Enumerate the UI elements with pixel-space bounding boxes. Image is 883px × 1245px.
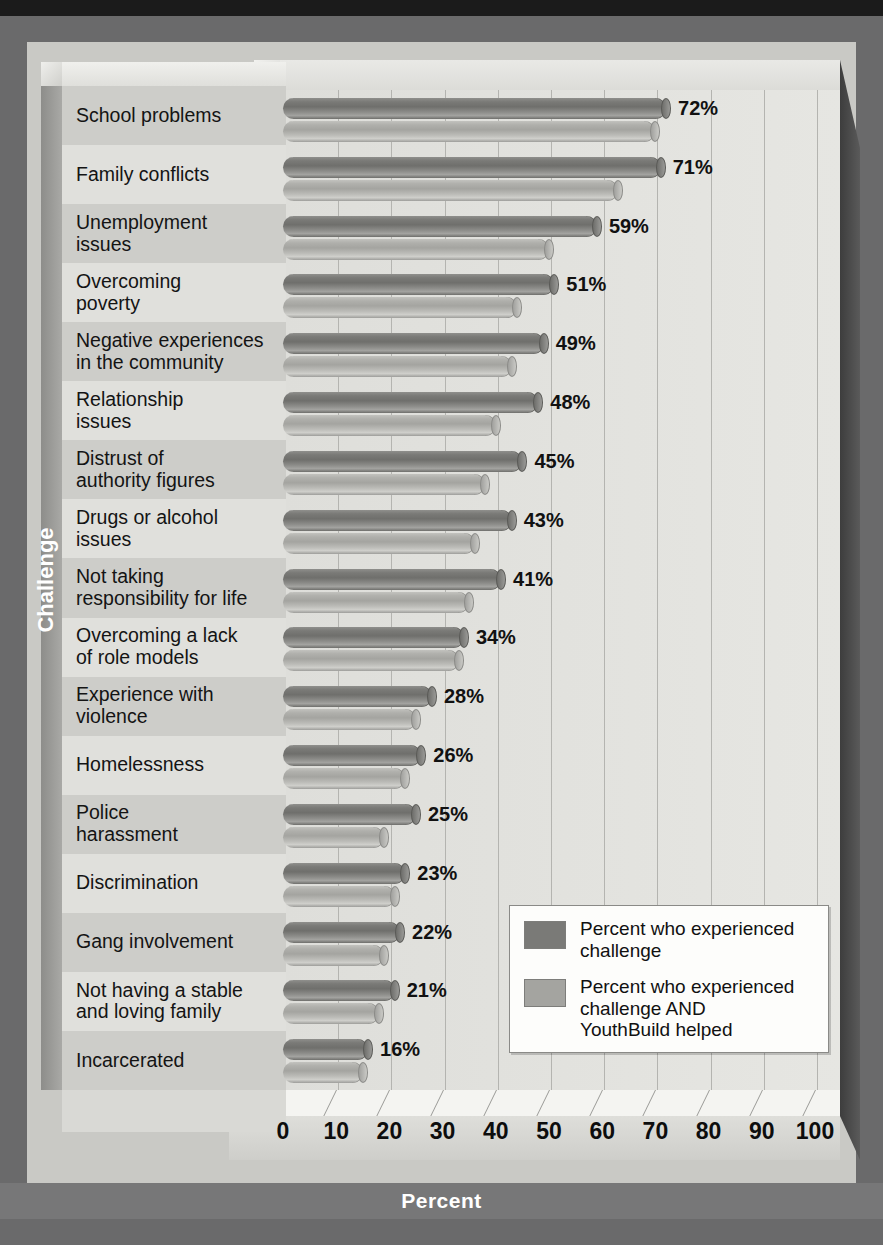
plot-right-shadow: [840, 60, 860, 1160]
bar-cap: [539, 333, 549, 354]
x-tick-label: 40: [483, 1118, 509, 1145]
bar-cap: [592, 216, 602, 237]
category-label-text: Not having a stableand loving family: [76, 980, 243, 1024]
category-label: Discrimination: [62, 854, 286, 913]
tick-mark: [643, 1090, 657, 1116]
bar-cap: [507, 510, 517, 531]
bar-series-experienced: [283, 451, 522, 472]
bar-series-youthbuild-helped: [283, 415, 496, 436]
bar-value-label: 26%: [433, 744, 473, 767]
category-label-text: Negative experiencesin the community: [76, 330, 264, 374]
x-tick-label: 60: [589, 1118, 615, 1145]
bar-value-label: 43%: [524, 509, 564, 532]
legend-label: Percent who experiencedchallenge: [580, 918, 794, 962]
bar-series-experienced: [283, 333, 544, 354]
category-label-text: Distrust ofauthority figures: [76, 448, 215, 492]
y-axis-title: Challenge: [31, 470, 61, 690]
bar-series-experienced: [283, 510, 512, 531]
top-dark-band: [0, 0, 883, 16]
bar-series-experienced: [283, 274, 554, 295]
bar-series-youthbuild-helped: [283, 1062, 363, 1083]
bar-value-label: 48%: [550, 391, 590, 414]
bar-cap: [374, 1003, 384, 1024]
bar-cap: [613, 180, 623, 201]
legend-swatch: [524, 921, 566, 949]
category-label: Incarcerated: [62, 1031, 286, 1090]
category-label: Unemploymentissues: [62, 204, 286, 263]
x-tick-label: 100: [796, 1118, 834, 1145]
bar-series-youthbuild-helped: [283, 592, 469, 613]
x-tick-label: 70: [643, 1118, 669, 1145]
chart-root: School problemsFamily conflictsUnemploym…: [0, 0, 883, 1245]
bar-value-label: 71%: [673, 156, 713, 179]
bar-value-label: 22%: [412, 921, 452, 944]
bar-series-experienced: [283, 804, 416, 825]
bar-series-experienced: [283, 157, 661, 178]
bar-series-youthbuild-helped: [283, 180, 618, 201]
legend-label: Percent who experiencedchallenge ANDYout…: [580, 976, 794, 1042]
bar-series-youthbuild-helped: [283, 886, 395, 907]
tick-mark: [749, 1090, 763, 1116]
category-label: Not having a stableand loving family: [62, 972, 286, 1031]
bar-series-experienced: [283, 98, 666, 119]
legend-item: Percent who experiencedchallenge: [524, 918, 818, 962]
category-label: Drugs or alcoholissues: [62, 499, 286, 558]
tick-mark: [590, 1090, 604, 1116]
bar-series-youthbuild-helped: [283, 768, 405, 789]
category-label: Homelessness: [62, 736, 286, 795]
bar-cap: [390, 980, 400, 1001]
label-column-top: [62, 62, 286, 86]
tick-mark: [377, 1090, 391, 1116]
x-tick-label: 20: [377, 1118, 403, 1145]
plot-wall-top: [255, 60, 840, 91]
bar-cap: [656, 157, 666, 178]
category-label-text: Unemploymentissues: [76, 212, 207, 256]
bar-value-label: 45%: [534, 450, 574, 473]
bar-series-youthbuild-helped: [283, 297, 517, 318]
bar-value-label: 72%: [678, 97, 718, 120]
bar-value-label: 23%: [417, 862, 457, 885]
bar-series-experienced: [283, 1039, 368, 1060]
bar-cap: [454, 650, 464, 671]
bar-value-label: 16%: [380, 1038, 420, 1061]
bar-series-experienced: [283, 745, 421, 766]
bar-cap: [358, 1062, 368, 1083]
x-tick-label: 30: [430, 1118, 456, 1145]
x-axis-tick-labels: 0102030405060708090100: [229, 1118, 840, 1152]
bar-series-experienced: [283, 980, 395, 1001]
bar-series-youthbuild-helped: [283, 533, 475, 554]
category-label: Overcomingpoverty: [62, 263, 286, 322]
category-label: School problems: [62, 86, 286, 145]
category-label-text: Homelessness: [76, 754, 204, 776]
bar-value-label: 51%: [566, 273, 606, 296]
bar-series-youthbuild-helped: [283, 709, 416, 730]
category-label-text: Not takingresponsibility for life: [76, 566, 247, 610]
x-tick-label: 10: [323, 1118, 349, 1145]
legend: Percent who experiencedchallengePercent …: [509, 905, 829, 1053]
bar-cap: [379, 945, 389, 966]
tick-mark: [536, 1090, 550, 1116]
bar-series-youthbuild-helped: [283, 356, 512, 377]
category-label: Gang involvement: [62, 913, 286, 972]
category-label: Policeharassment: [62, 795, 286, 854]
x-tick-label: 90: [749, 1118, 775, 1145]
bar-cap: [661, 98, 671, 119]
bar-series-youthbuild-helped: [283, 239, 549, 260]
bar-value-label: 41%: [513, 568, 553, 591]
bar-value-label: 21%: [407, 979, 447, 1002]
category-label: Experience withviolence: [62, 677, 286, 736]
tick-mark: [324, 1090, 338, 1116]
bar-series-experienced: [283, 922, 400, 943]
category-label: Relationshipissues: [62, 381, 286, 440]
bar-series-experienced: [283, 627, 464, 648]
category-label: Distrust ofauthority figures: [62, 440, 286, 499]
bar-cap: [464, 592, 474, 613]
bar-cap: [496, 569, 506, 590]
bar-series-youthbuild-helped: [283, 474, 485, 495]
bar-cap: [411, 804, 421, 825]
bar-cap: [379, 827, 389, 848]
bar-cap: [544, 239, 554, 260]
category-label-text: Family conflicts: [76, 164, 209, 186]
x-tick-label: 50: [536, 1118, 562, 1145]
legend-item: Percent who experiencedchallenge ANDYout…: [524, 976, 818, 1042]
